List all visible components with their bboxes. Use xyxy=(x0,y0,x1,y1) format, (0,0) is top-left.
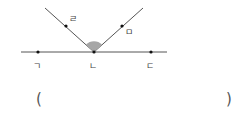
answer-blank[interactable] xyxy=(50,92,220,108)
label-nieun: ㄴ xyxy=(89,62,97,71)
label-mieum: ㅁ xyxy=(125,28,133,37)
label-digeut: ㄷ xyxy=(146,62,154,71)
answer-open-paren: ( xyxy=(36,92,42,107)
point-rieul xyxy=(64,24,67,27)
point-giyeok xyxy=(36,50,39,53)
point-mieum xyxy=(120,24,123,27)
point-nieun xyxy=(92,50,95,53)
point-digeut xyxy=(149,50,152,53)
label-giyeok: ㄱ xyxy=(33,62,41,71)
ray-right xyxy=(94,8,143,52)
answer-close-paren: ) xyxy=(226,92,232,107)
label-rieul: ㄹ xyxy=(69,15,77,24)
